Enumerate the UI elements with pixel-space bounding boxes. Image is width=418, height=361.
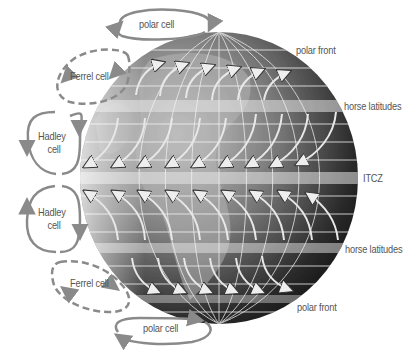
label-polar-cell-north: polar cell bbox=[139, 18, 174, 30]
label-itcz: ITCZ bbox=[363, 172, 383, 184]
label-ferrel-cell-south: Ferrel cell bbox=[70, 277, 109, 289]
label-hadley-south-line2: cell bbox=[43, 219, 61, 231]
label-horse-latitudes-north: horse latitudes bbox=[344, 100, 401, 112]
label-ferrel-cell-north: Ferrel cell bbox=[70, 70, 109, 82]
label-polar-cell-south: polar cell bbox=[143, 322, 178, 334]
label-horse-latitudes-south: horse latitudes bbox=[345, 243, 402, 255]
label-hadley-cell-south: Hadley cell bbox=[38, 206, 66, 232]
label-hadley-north-line2: cell bbox=[43, 143, 61, 155]
diagram-graphics bbox=[0, 0, 418, 361]
earth-globe bbox=[70, 20, 370, 340]
circulation-diagram: polar cell Ferrel cell Hadley cell Hadle… bbox=[0, 0, 418, 361]
label-polar-front-south: polar front bbox=[297, 301, 337, 313]
label-hadley-north-line1: Hadley bbox=[38, 130, 66, 142]
label-hadley-south-line1: Hadley bbox=[38, 206, 66, 218]
label-hadley-cell-north: Hadley cell bbox=[38, 130, 66, 156]
label-polar-front-north: polar front bbox=[296, 44, 336, 56]
